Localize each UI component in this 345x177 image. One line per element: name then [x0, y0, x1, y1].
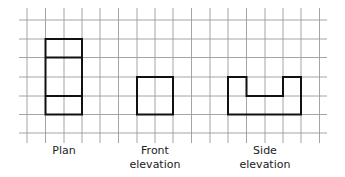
front-elevation-label: Front elevation [115, 144, 195, 172]
front-label-line2: elevation [115, 158, 195, 172]
side-label-line2: elevation [225, 158, 305, 172]
front-label-line1: Front [115, 144, 195, 158]
side-elevation-label: Side elevation [225, 144, 305, 172]
plan-label-text: Plan [52, 144, 75, 157]
plan-label: Plan [24, 144, 104, 158]
side-label-line1: Side [225, 144, 305, 158]
grid [19, 8, 327, 143]
